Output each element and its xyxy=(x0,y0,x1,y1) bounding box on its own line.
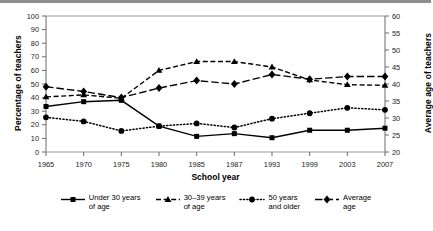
x-tick-label: 1980 xyxy=(151,160,167,169)
series-line-square xyxy=(46,100,385,137)
series-line-diamond xyxy=(46,74,385,97)
marker-circle xyxy=(194,121,200,127)
y-tick-label-left: 70 xyxy=(31,52,39,61)
marker-circle xyxy=(269,116,275,122)
x-tick-label: 1999 xyxy=(301,160,317,169)
marker-diamond xyxy=(269,70,276,78)
x-tick-label: 2003 xyxy=(339,160,355,169)
y-tick-label-right: 45 xyxy=(392,63,400,72)
legend-marker-diamond-icon xyxy=(314,194,340,205)
y-tick-label-right: 20 xyxy=(392,148,400,157)
legend-item-label: 30–39 years of age xyxy=(184,192,226,212)
x-tick-label: 1975 xyxy=(113,160,129,169)
marker-triangle xyxy=(231,58,238,64)
y-axis-title-right: Average age of teachers xyxy=(423,23,433,143)
y-tick-label-right: 35 xyxy=(392,97,400,106)
marker-square xyxy=(232,131,237,136)
x-tick-label: 2007 xyxy=(377,160,393,169)
y-tick-label-left: 40 xyxy=(31,93,39,102)
marker-circle xyxy=(382,107,388,113)
legend-item[interactable]: Average age xyxy=(314,192,371,212)
y-tick-label-left: 10 xyxy=(31,134,39,143)
y-tick-label-left: 30 xyxy=(31,107,39,116)
marker-circle xyxy=(81,119,87,125)
y-tick-label-left: 0 xyxy=(35,148,39,157)
legend-item[interactable]: 30–39 years of age xyxy=(155,192,226,212)
x-tick-label: 1985 xyxy=(188,160,204,169)
marker-diamond xyxy=(156,84,163,92)
top-rule-divider xyxy=(0,0,431,3)
marker-circle xyxy=(156,123,162,129)
legend-marker-circle-icon xyxy=(239,194,265,205)
y-tick-label-left: 50 xyxy=(31,80,39,89)
marker-circle xyxy=(118,128,124,134)
y-tick-label-left: 60 xyxy=(31,66,39,75)
y-tick-label-left: 90 xyxy=(31,25,39,34)
legend-row: Under 30 years of age30–39 years of age5… xyxy=(0,192,431,212)
y-tick-label-right: 25 xyxy=(392,131,400,140)
chart-plot-area: 0102030405060708090100202530354045505560… xyxy=(0,4,431,190)
marker-diamond xyxy=(80,87,87,95)
marker-diamond xyxy=(382,73,389,81)
marker-circle xyxy=(43,114,49,120)
legend-item-label: 50 years and older xyxy=(268,192,300,212)
y-tick-label-right: 40 xyxy=(392,80,400,89)
y-tick-label-left: 80 xyxy=(31,39,39,48)
line-chart-svg: 0102030405060708090100202530354045505560… xyxy=(0,4,431,190)
legend-item[interactable]: Under 30 years of age xyxy=(60,192,141,212)
x-tick-label: 1987 xyxy=(226,160,242,169)
marker-square xyxy=(383,126,388,131)
legend-marker-square-icon xyxy=(60,194,86,205)
legend-marker-triangle-icon xyxy=(155,194,181,205)
marker-square xyxy=(194,134,199,139)
y-axis-title-left: Percentage of teachers xyxy=(13,23,23,143)
y-tick-label-left: 20 xyxy=(31,120,39,129)
y-tick-label-right: 55 xyxy=(392,29,400,38)
y-tick-label-right: 50 xyxy=(392,46,400,55)
marker-square xyxy=(44,104,49,109)
series-line-triangle xyxy=(46,62,385,99)
chart-legend: Under 30 years of age30–39 years of age5… xyxy=(0,192,431,228)
series-line-circle xyxy=(46,108,385,131)
marker-square xyxy=(345,128,350,133)
legend-item-label: Under 30 years of age xyxy=(89,192,141,212)
x-axis-title: School year xyxy=(0,172,431,182)
y-tick-label-right: 30 xyxy=(392,114,400,123)
x-tick-label: 1965 xyxy=(38,160,54,169)
legend-item-label: Average age xyxy=(343,192,371,212)
marker-square xyxy=(307,128,312,133)
marker-square xyxy=(81,99,86,104)
y-tick-label-left: 100 xyxy=(27,12,39,21)
marker-triangle xyxy=(269,64,276,70)
marker-diamond xyxy=(231,80,238,88)
x-tick-label: 1970 xyxy=(75,160,91,169)
marker-square xyxy=(270,135,275,140)
marker-circle xyxy=(231,125,237,131)
marker-diamond xyxy=(344,73,351,81)
x-tick-label: 1993 xyxy=(264,160,280,169)
legend-item[interactable]: 50 years and older xyxy=(239,192,300,212)
marker-circle xyxy=(344,105,350,111)
marker-diamond xyxy=(193,77,200,85)
marker-circle xyxy=(307,110,313,116)
y-tick-label-right: 60 xyxy=(392,12,400,21)
